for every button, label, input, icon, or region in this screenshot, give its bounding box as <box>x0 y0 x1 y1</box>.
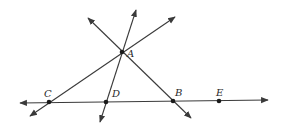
point-C <box>47 100 52 105</box>
point-label-A: A <box>126 48 134 59</box>
line-CE <box>20 100 268 103</box>
point-label-D: D <box>111 88 120 99</box>
line-DA <box>100 10 136 122</box>
geometry-diagram: ACDBE <box>0 0 282 126</box>
point-A <box>120 50 125 55</box>
point-E <box>217 99 222 104</box>
point-D <box>104 100 109 105</box>
line-AB <box>88 18 191 118</box>
point-label-E: E <box>215 87 224 98</box>
point-label-B: B <box>174 87 182 98</box>
point-label-C: C <box>44 88 52 99</box>
point-B <box>171 99 176 104</box>
lines-layer <box>20 10 268 122</box>
labels-layer: ACDBE <box>44 48 224 99</box>
